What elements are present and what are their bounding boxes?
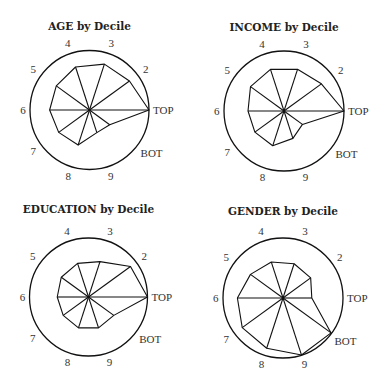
decile-radar-charts: AGE by Decile TOP23456789BOT INCOME by D… (0, 0, 386, 377)
axis-label-bot: BOT (335, 335, 357, 347)
axis-label-3: 3 (107, 225, 113, 237)
axis-label-bot: BOT (141, 147, 163, 159)
spoke-3 (90, 64, 105, 110)
chart-income: INCOME by Decile TOP23456789BOT (214, 21, 369, 183)
axis-label-2: 2 (142, 250, 148, 262)
axis-label-2: 2 (143, 63, 149, 75)
spoke-7 (242, 298, 283, 328)
spoke-2 (284, 84, 321, 111)
axis-label-4: 4 (64, 225, 70, 237)
spoke-9 (90, 110, 97, 133)
axis-label-7: 7 (30, 145, 36, 157)
axis-label-4: 4 (259, 38, 265, 50)
axis-label-6: 6 (20, 291, 26, 303)
axis-label-6: 6 (20, 104, 26, 116)
data-polygon (50, 64, 149, 145)
axis-label-8: 8 (65, 170, 71, 182)
spoke-5 (61, 277, 88, 297)
chart-title: AGE by Decile (47, 20, 131, 32)
axis-label-3: 3 (108, 37, 114, 49)
spoke-5 (250, 274, 283, 298)
axis-label-2: 2 (338, 64, 344, 76)
axis-label-5: 5 (30, 250, 36, 262)
spoke-3 (284, 69, 298, 111)
chart-title: EDUCATION by Decile (23, 203, 155, 215)
data-polygon (237, 262, 331, 355)
axis-label-3: 3 (303, 38, 309, 50)
axis-label-9: 9 (108, 170, 114, 182)
spoke-7 (255, 111, 284, 132)
data-polygon (57, 262, 147, 328)
axis-label-5: 5 (30, 63, 36, 75)
axis-label-8: 8 (65, 356, 71, 368)
axis-label-top: TOP (152, 291, 173, 303)
axis-label-5: 5 (224, 64, 230, 76)
spoke-4 (76, 67, 90, 110)
chart-gender: GENDER by Decile TOP23456789BOT (213, 205, 368, 370)
spoke-bot (284, 111, 302, 124)
spoke-5 (56, 86, 89, 110)
chart-title: INCOME by Decile (229, 21, 339, 33)
axis-label-top: TOP (347, 292, 368, 304)
spoke-9 (89, 297, 99, 328)
spoke-4 (78, 263, 89, 297)
spoke-8 (273, 111, 284, 146)
spoke-8 (78, 110, 89, 145)
chart-age: AGE by Decile TOP23456789BOT (20, 20, 173, 182)
spoke-7 (63, 297, 88, 315)
spoke-4 (271, 262, 283, 298)
spoke-bot (90, 110, 110, 125)
axis-label-6: 6 (214, 105, 220, 117)
chart-education: EDUCATION by Decile TOP23456789BOT (20, 203, 172, 368)
axis-label-7: 7 (223, 333, 229, 345)
axis-label-5: 5 (223, 251, 229, 263)
axis-label-9: 9 (107, 356, 113, 368)
axis-label-top: TOP (348, 105, 369, 117)
axis-label-7: 7 (224, 146, 230, 158)
axis-label-7: 7 (30, 332, 36, 344)
axis-label-9: 9 (303, 171, 309, 183)
axis-label-9: 9 (302, 358, 308, 370)
spoke-3 (283, 264, 294, 298)
spoke-bot (283, 298, 331, 333)
spoke-2 (283, 278, 311, 298)
axis-label-bot: BOT (336, 148, 358, 160)
axis-label-4: 4 (258, 225, 264, 237)
axis-label-3: 3 (302, 225, 308, 237)
spoke-4 (270, 69, 284, 111)
spoke-3 (89, 262, 100, 297)
spoke-7 (59, 110, 90, 132)
axis-label-bot: BOT (139, 333, 161, 345)
spoke-9 (284, 111, 293, 138)
axis-label-4: 4 (65, 37, 71, 49)
axis-label-top: TOP (153, 104, 174, 116)
axis-label-8: 8 (259, 358, 265, 370)
data-polygon (248, 69, 344, 145)
axis-label-2: 2 (337, 251, 343, 263)
axis-label-8: 8 (260, 171, 266, 183)
spoke-8 (267, 298, 283, 348)
spoke-5 (251, 87, 284, 111)
axis-label-6: 6 (213, 292, 219, 304)
spoke-9 (283, 298, 302, 355)
spoke-2 (90, 81, 130, 110)
spoke-8 (78, 297, 88, 328)
chart-title: GENDER by Decile (228, 205, 338, 217)
spoke-2 (89, 266, 131, 297)
spoke-bot (89, 297, 114, 315)
